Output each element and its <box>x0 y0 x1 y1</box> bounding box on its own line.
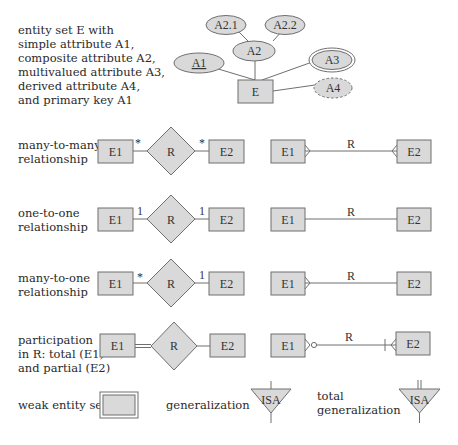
cardinality-left: * <box>137 270 143 284</box>
cardinality-right: 1 <box>199 268 205 282</box>
relationship-R-text: R <box>170 339 178 353</box>
relationship-R-text: R <box>167 213 175 227</box>
entity-E2-text: E2 <box>220 145 233 159</box>
entity-E1-text: E1 <box>109 277 122 291</box>
attribute-A3-text: A3 <box>325 53 340 67</box>
entity-E2-text: E2 <box>407 145 420 159</box>
entity-E2-text: E2 <box>407 277 420 291</box>
relationship-R-text: R <box>167 277 175 291</box>
entity-E1-text: E1 <box>111 339 124 353</box>
relationship-R-text: R <box>347 269 355 283</box>
cardinality-right: * <box>199 136 205 150</box>
entity-E1-text: E1 <box>281 145 294 159</box>
isa-text: ISA <box>261 393 281 407</box>
entity-E1-text: E1 <box>109 145 122 159</box>
attribute-A2-text: A2 <box>247 44 262 58</box>
entity-E2-text: E2 <box>406 337 419 351</box>
relationship-R-text: R <box>345 330 353 344</box>
entity-E1-text: E1 <box>281 213 294 227</box>
entity-E2-text: E2 <box>407 213 420 227</box>
cardinality-right: 1 <box>199 204 205 218</box>
attribute-A2.2-text: A2.2 <box>273 18 297 32</box>
attribute-A1-text: A1 <box>192 56 207 70</box>
entity-E1-text: E1 <box>281 339 294 353</box>
cardinality-left: * <box>135 136 141 150</box>
entity-E1-text: E1 <box>109 213 122 227</box>
entity-E-text: E <box>252 85 259 99</box>
entity-E1-text: E1 <box>281 277 294 291</box>
relationship-R-text: R <box>167 145 175 159</box>
entity-E2-text: E2 <box>220 277 233 291</box>
cardinality-left: 1 <box>137 204 143 218</box>
weak-entity-symbol <box>100 392 138 418</box>
attribute-A2.1-text: A2.1 <box>214 18 238 32</box>
relationship-R-text: R <box>347 137 355 151</box>
relationship-R-text: R <box>347 205 355 219</box>
er-notation-diagram: E A1 A2 A2.1 A2.2 A3 A4 E1 R E2 * * E1 R… <box>0 0 458 445</box>
attribute-A4-text: A4 <box>326 81 341 95</box>
entity-E2-text: E2 <box>220 213 233 227</box>
entity-E2-text: E2 <box>221 339 234 353</box>
isa-total-text: ISA <box>410 393 430 407</box>
